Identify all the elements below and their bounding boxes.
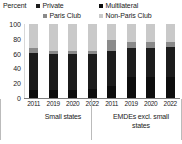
x-axis-tick-labels: 20112019202020222011201920202022: [24, 99, 180, 110]
group-separator-left: [0, 99, 1, 140]
chart-legend: Percent Private Multilateral Paris Club …: [0, 1, 182, 23]
bar-group-1: [24, 24, 102, 98]
bar-2011-group2[interactable]: [107, 24, 116, 98]
group-label-emdes: EMDEs excl. small states: [102, 112, 180, 130]
bar-segment-multilateral: [29, 90, 38, 98]
bar-segment-private: [29, 53, 38, 90]
y-axis-title: Percent: [3, 2, 26, 10]
legend-label-non-paris-club: Non-Paris Club: [106, 12, 152, 20]
bars-canvas: [24, 24, 180, 98]
bar-segment-multilateral: [107, 86, 116, 98]
square-swatch-icon: [99, 14, 103, 18]
legend-item-multilateral[interactable]: Multilateral: [99, 2, 138, 10]
x-axis-tick-2011-group1: 2011: [26, 99, 41, 108]
square-swatch-icon: [43, 14, 47, 18]
bar-segment-private: [166, 47, 175, 77]
y-axis-line: [24, 24, 25, 98]
bar-segment-private: [127, 48, 136, 77]
legend-item-private[interactable]: Private: [36, 2, 64, 10]
legend-item-paris-club[interactable]: Paris Club: [43, 12, 81, 20]
bar-segment-non-paris-club: [88, 24, 97, 51]
bar-segment-non-paris-club: [127, 24, 136, 42]
bar-groups: [24, 24, 180, 98]
x-axis-tick-2020-group1: 2020: [65, 99, 80, 108]
group-separator-right: [181, 99, 182, 140]
stacked-bar-chart: Percent Private Multilateral Paris Club …: [0, 0, 182, 144]
y-axis-tick-100: 100: [9, 21, 21, 28]
bar-segment-multilateral: [68, 90, 77, 98]
bar-segment-non-paris-club: [166, 24, 175, 42]
bar-segment-multilateral: [166, 77, 175, 98]
legend-label-multilateral: Multilateral: [106, 2, 139, 10]
bar-segment-private: [49, 54, 58, 90]
group-separator-middle: [91, 99, 92, 140]
group-captions: Small states EMDEs excl. small states: [24, 110, 180, 140]
square-swatch-icon: [99, 4, 103, 8]
bar-segment-multilateral: [49, 90, 58, 98]
y-axis-tick-0: 0: [17, 95, 21, 102]
x-axis-group-2: 2011201920202022: [102, 99, 180, 110]
legend-item-non-paris-club[interactable]: Non-Paris Club: [99, 12, 152, 20]
bar-segment-non-paris-club: [29, 24, 38, 48]
bar-segment-multilateral: [127, 77, 136, 98]
y-axis-tick-20: 20: [13, 80, 21, 87]
bar-segment-multilateral: [88, 89, 97, 98]
bar-segment-non-paris-club: [146, 24, 155, 42]
bar-segment-paris-club: [107, 40, 116, 50]
y-axis-tick-80: 80: [13, 35, 21, 42]
x-axis-tick-2022-group1: 2022: [85, 99, 100, 108]
bar-segment-multilateral: [146, 77, 155, 98]
bar-2022-group2[interactable]: [166, 24, 175, 98]
y-axis-tick-40: 40: [13, 65, 21, 72]
y-axis-tick-60: 60: [13, 50, 21, 57]
bar-segment-non-paris-club: [68, 24, 77, 51]
bar-2020-group2[interactable]: [146, 24, 155, 98]
square-swatch-icon: [36, 4, 40, 8]
bar-segment-non-paris-club: [107, 24, 116, 40]
bar-segment-paris-club: [127, 42, 136, 49]
bar-2022-group1[interactable]: [88, 24, 97, 98]
x-axis-tick-2019-group1: 2019: [46, 99, 61, 108]
plot-area: 100806040200: [0, 24, 182, 98]
x-axis-tick-2022-group2: 2022: [163, 99, 178, 108]
bar-2020-group1[interactable]: [68, 24, 77, 98]
bar-2019-group1[interactable]: [49, 24, 58, 98]
bar-group-2: [102, 24, 180, 98]
bar-segment-private: [68, 54, 77, 90]
legend-label-paris-club: Paris Club: [50, 12, 81, 20]
legend-label-private: Private: [43, 2, 64, 10]
x-axis-tick-2019-group2: 2019: [124, 99, 139, 108]
group-caption-emdes: EMDEs excl. small states: [102, 110, 180, 140]
bar-segment-private: [107, 51, 116, 87]
bar-segment-non-paris-club: [49, 24, 58, 51]
x-axis-tick-2011-group2: 2011: [104, 99, 119, 108]
bar-segment-private: [88, 54, 97, 89]
bar-segment-private: [146, 48, 155, 78]
bar-2011-group1[interactable]: [29, 24, 38, 98]
y-axis-tick-labels: 100806040200: [0, 24, 22, 98]
bar-2019-group2[interactable]: [127, 24, 136, 98]
x-axis-tick-2020-group2: 2020: [143, 99, 158, 108]
